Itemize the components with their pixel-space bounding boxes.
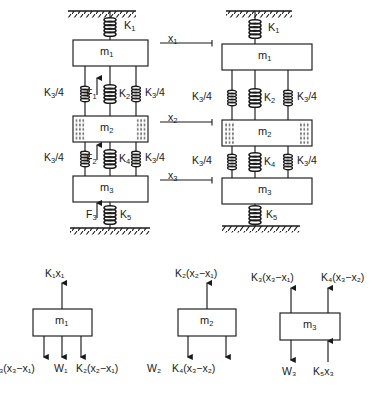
right-bottom-ground-icon <box>222 226 300 233</box>
right-mass-m2-label: m2 <box>258 126 271 138</box>
fbd-m2-down-force-label-2: K₄(x₃−x₂) <box>172 363 215 374</box>
left-spring-k2-label: K2 <box>119 88 130 100</box>
right-spring-k2-label: K2 <box>264 92 275 104</box>
fbd-m3-bottom-up-force-label-1: K₅x₃ <box>313 366 334 377</box>
right-mass-m1-label: m1 <box>258 50 271 62</box>
left-mass-m2-label: m2 <box>100 122 113 134</box>
right-spring-k3b-left-label: K3/4 <box>192 155 212 167</box>
left-spring-k3a-right-label: K3/4 <box>145 87 165 99</box>
fbd-m1-mass-label: m1 <box>55 315 68 327</box>
fbd-m2-down-force-label-1: W₂ <box>147 363 161 374</box>
fbd-m3-up-force-label-1: K₃(x₃−x₁) <box>251 272 294 283</box>
right-spring-k3b-right-label: K3/4 <box>297 155 317 167</box>
right-top-ground-icon <box>226 11 292 18</box>
displacement-x2-label: x2 <box>168 112 177 124</box>
right-system-graphics <box>222 11 312 233</box>
diagram-svg <box>0 0 383 400</box>
right-spring-k3a-right-label: K3/4 <box>297 91 317 103</box>
right-spring-k1-label: K1 <box>268 22 280 34</box>
right-spring-k3a-left-label: K3/4 <box>192 91 212 103</box>
displacement-x1-label: x1 <box>168 33 177 45</box>
left-spring-k1-label: K1 <box>124 20 136 32</box>
left-force-f1-label: F1 <box>86 88 97 100</box>
fbd-m2-mass-label: m2 <box>200 315 213 327</box>
displacement-x3-label: x3 <box>168 170 177 182</box>
fbd-m1-down-force-label-2: W₁ <box>54 363 67 374</box>
left-spring-k5-label: K5 <box>120 209 131 221</box>
fbd-m3-mass-label: m3 <box>303 319 316 331</box>
fbd-m1-down-force-label-1: ₃(x₃−x₁) <box>0 363 35 374</box>
left-bottom-ground-icon <box>70 228 150 235</box>
fbd-m3-down-force-label-1: W₃ <box>282 366 296 377</box>
fbd-m3-up-force-label-2: K₄(x₃−x₂) <box>321 272 364 283</box>
left-top-ground-icon <box>68 11 136 18</box>
fbd-m2-up-force-label-1: K₂(x₂−x₁) <box>175 268 217 279</box>
left-spring-k3b-right-label: K3/4 <box>145 152 165 164</box>
right-spring-k5-label: K5 <box>266 209 277 221</box>
right-mass-m3-label: m3 <box>258 184 271 196</box>
right-spring-k4-label: K4 <box>264 156 275 168</box>
diagram-canvas: K1 m1 K3/4 F1 K2 K3/4 m2 K3/4 F2 K4 K3/4… <box>0 0 383 400</box>
left-mass-m1-label: m1 <box>100 46 113 58</box>
left-mass-m3-label: m3 <box>100 182 113 194</box>
left-force-f2-label: F2 <box>86 153 97 165</box>
fbd-m1-up-force-label-1: K₁x₁ <box>45 268 64 279</box>
left-spring-k3b-left-label: K3/4 <box>44 152 64 164</box>
left-force-f3-label: F3 <box>86 209 97 221</box>
fbd-m1-down-force-label-3: K₂(x₂−x₁) <box>76 363 118 374</box>
left-spring-k4-label: K4 <box>119 153 130 165</box>
left-spring-k3a-left-label: K3/4 <box>44 87 64 99</box>
